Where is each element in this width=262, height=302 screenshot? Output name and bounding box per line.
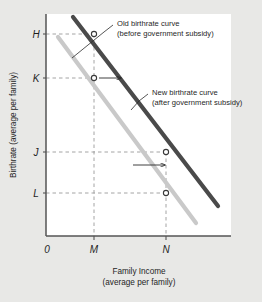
x-tick-label-0: 0 (44, 244, 50, 255)
annotation-old-curve-line2: (before government subsidy) (117, 29, 214, 38)
x-tick-label-n: N (162, 244, 170, 255)
annotation-new-curve-line1: New birthrate curve (152, 88, 218, 97)
plot-area-background (46, 14, 231, 236)
y-tick-label-l: L (33, 188, 39, 199)
annotation-new-curve-line2: (after government subsidy) (152, 98, 243, 107)
x-axis-title-sub: (average per family) (103, 278, 176, 287)
x-tick-label-m: M (90, 244, 99, 255)
x-axis-title-main: Family Income (112, 267, 166, 276)
y-tick-label-h: H (32, 29, 40, 40)
point-m-k (91, 75, 96, 80)
annotation-old-curve-line1: Old birthrate curve (117, 19, 179, 28)
y-axis-title: Birthrate (average per family) (9, 72, 18, 178)
birthrate-family-income-chart: H K J L 0 M N Birthrate (average per fam… (0, 0, 262, 302)
point-m-h (91, 31, 96, 36)
y-tick-label-j: J (33, 147, 40, 158)
point-n-l (163, 190, 168, 195)
point-n-j (163, 149, 168, 154)
